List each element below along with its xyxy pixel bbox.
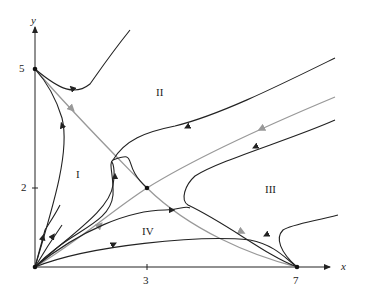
tick-label-x7: 7 bbox=[293, 274, 299, 286]
tick-label-y5: 5 bbox=[19, 62, 25, 74]
x-axis-label: x bbox=[341, 260, 346, 272]
region-label-II: II bbox=[156, 86, 163, 98]
phase-portrait: x y 3 7 5 2 I II III IV bbox=[0, 0, 378, 298]
trajectories bbox=[35, 30, 338, 267]
phase-plot-svg bbox=[0, 0, 378, 298]
axes bbox=[32, 27, 330, 270]
separatrices bbox=[35, 69, 335, 267]
y-axis-label: y bbox=[31, 14, 36, 26]
region-label-III: III bbox=[265, 183, 276, 195]
region-label-I: I bbox=[76, 168, 80, 180]
equilibrium-y5 bbox=[33, 67, 38, 72]
tick-label-y2: 2 bbox=[21, 181, 27, 193]
equilibria bbox=[33, 67, 300, 270]
equilibrium-x7 bbox=[295, 265, 300, 270]
tick-label-x3: 3 bbox=[143, 274, 149, 286]
equilibrium-origin bbox=[33, 265, 38, 270]
equilibrium-saddle bbox=[145, 186, 150, 191]
region-label-IV: IV bbox=[142, 225, 154, 237]
